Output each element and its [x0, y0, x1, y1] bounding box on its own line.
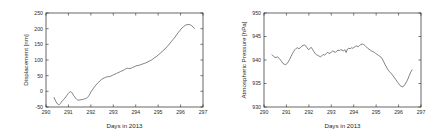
svg-text:Displacement [nm]: Displacement [nm] [22, 34, 29, 86]
displacement-plot-labels: 290291292293294295296297-500501001502002… [22, 10, 207, 129]
svg-text:291: 291 [64, 109, 73, 115]
pressure-plot-labels: 290291292293294295296297930935940945950D… [240, 10, 425, 129]
svg-text:930: 930 [252, 104, 261, 110]
svg-text:200: 200 [34, 26, 43, 32]
svg-text:Days in 2013: Days in 2013 [324, 122, 361, 129]
pressure-plot-axes [264, 13, 421, 107]
svg-text:100: 100 [34, 57, 43, 63]
pressure-plot: 290291292293294295296297930935940945950D… [218, 0, 436, 138]
svg-text:50: 50 [37, 73, 43, 79]
svg-text:296: 296 [176, 109, 185, 115]
svg-text:291: 291 [282, 109, 291, 115]
svg-text:295: 295 [372, 109, 381, 115]
svg-text:0: 0 [40, 88, 43, 94]
svg-text:292: 292 [305, 109, 314, 115]
svg-text:950: 950 [252, 10, 261, 16]
svg-text:290: 290 [42, 109, 51, 115]
svg-text:945: 945 [252, 33, 261, 39]
svg-text:294: 294 [349, 109, 358, 115]
figure-container: 290291292293294295296297-500501001502002… [0, 0, 436, 138]
chart-panel-pressure: 290291292293294295296297930935940945950D… [218, 0, 436, 138]
svg-text:Days in 2013: Days in 2013 [106, 122, 143, 129]
svg-text:297: 297 [417, 109, 426, 115]
svg-text:935: 935 [252, 80, 261, 86]
svg-text:293: 293 [327, 109, 336, 115]
svg-text:294: 294 [131, 109, 140, 115]
displacement-plot: 290291292293294295296297-500501001502002… [0, 0, 218, 138]
svg-text:295: 295 [154, 109, 163, 115]
svg-text:-50: -50 [36, 104, 44, 110]
svg-text:Atmospheric Pressure [hPa]: Atmospheric Pressure [hPa] [240, 21, 247, 98]
svg-text:292: 292 [87, 109, 96, 115]
pressure-plot-series [272, 44, 412, 87]
svg-text:940: 940 [252, 57, 261, 63]
svg-text:297: 297 [199, 109, 208, 115]
svg-text:250: 250 [34, 10, 43, 16]
displacement-plot-axes [46, 13, 203, 107]
chart-panel-displacement: 290291292293294295296297-500501001502002… [0, 0, 218, 138]
svg-text:150: 150 [34, 41, 43, 47]
displacement-plot-series [54, 25, 194, 105]
svg-text:290: 290 [260, 109, 269, 115]
svg-text:293: 293 [109, 109, 118, 115]
svg-text:296: 296 [394, 109, 403, 115]
